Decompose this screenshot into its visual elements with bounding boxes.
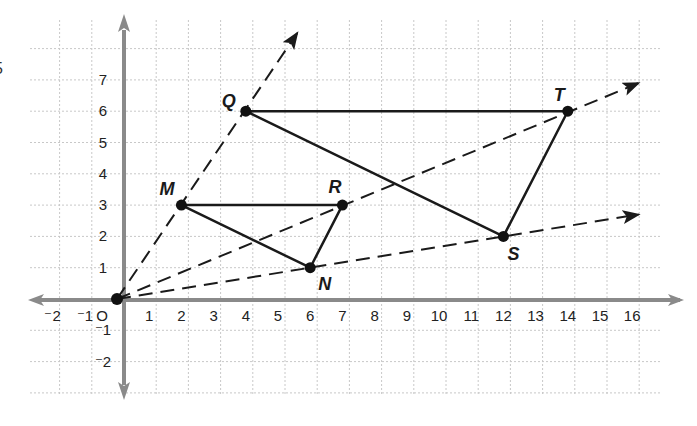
x-tick-label: 10 (431, 307, 448, 324)
x-tick-label: 5 (274, 307, 282, 324)
point-r (337, 200, 348, 211)
y-tick-label: 4 (99, 165, 107, 182)
point-label-r: R (328, 177, 341, 197)
dashed-ray-s (117, 214, 639, 299)
point-label-m: M (159, 179, 175, 199)
x-tick-label: 4 (242, 307, 250, 324)
x-tick-label: 15 (592, 307, 609, 324)
point-label-n: N (318, 274, 332, 294)
point-q (240, 106, 251, 117)
point-label-s: S (507, 244, 519, 264)
x-tick-label: 12 (495, 307, 512, 324)
x-tick-label: 9 (403, 307, 411, 324)
x-tick-label: 13 (527, 307, 544, 324)
y-tick-label: 5 (99, 134, 107, 151)
point-o (111, 293, 123, 305)
dashed-ray-q (117, 33, 297, 299)
x-tick-label: 2 (177, 307, 185, 324)
y-tick-label: 1 (99, 259, 107, 276)
x-tick-label: ⁻2 (44, 307, 60, 324)
x-tick-label: 6 (306, 307, 314, 324)
x-tick-label: 7 (338, 307, 346, 324)
point-m (176, 200, 187, 211)
axes (28, 14, 684, 400)
x-tick-label: 14 (559, 307, 576, 324)
y-tick-label: 3 (99, 196, 107, 213)
x-tick-label: 16 (624, 307, 641, 324)
dashed-rays (117, 33, 639, 299)
point-s (498, 231, 509, 242)
point-label-q: Q (222, 91, 236, 111)
point-t (562, 106, 573, 117)
dashed-ray-t (117, 83, 639, 299)
y-tick-label: 6 (99, 102, 107, 119)
y-tick-label: ⁻1 (95, 321, 111, 338)
x-tick-label: 8 (370, 307, 378, 324)
coordinate-plane-diagram: ⁻2⁻1O123456789101112131415167654321⁻1⁻2 … (0, 0, 697, 426)
point-n (305, 262, 316, 273)
y-tick-label: ⁻2 (95, 353, 111, 370)
y-axis-up-arrow-icon (118, 14, 130, 32)
x-tick-label: ⁻1 (77, 307, 93, 324)
x-tick-label: 11 (463, 307, 479, 324)
y-tick-label: 2 (99, 227, 107, 244)
y-tick-label: 7 (99, 71, 107, 88)
point-label-t: T (554, 85, 567, 105)
tick-labels: ⁻2⁻1O123456789101112131415167654321⁻1⁻2 (44, 71, 640, 370)
x-tick-label: 1 (145, 307, 153, 324)
x-tick-label: 3 (209, 307, 217, 324)
